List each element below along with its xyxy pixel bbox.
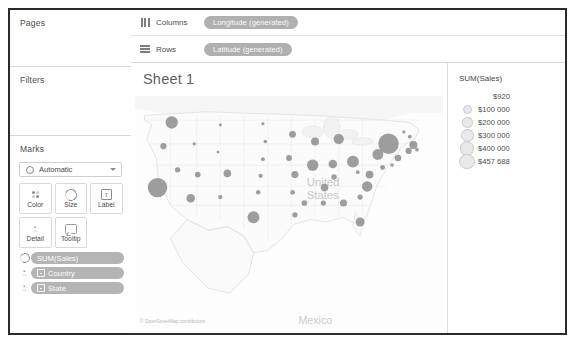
map-data-mark[interactable]	[289, 131, 296, 138]
marks-pill-list: SUM(Sales) ▪▫▫▫ Country	[18, 252, 124, 297]
map-data-mark[interactable]	[340, 199, 347, 206]
legend-title: SUM(Sales)	[459, 74, 502, 83]
marks-label-button[interactable]: T Label	[90, 183, 123, 214]
map-data-mark[interactable]	[261, 122, 264, 125]
map-data-mark[interactable]	[219, 123, 222, 126]
mark-type-dropdown[interactable]: Automatic	[19, 162, 122, 177]
map-data-mark[interactable]	[395, 155, 402, 162]
legend-entry[interactable]: $920	[456, 90, 559, 103]
svg-text:States: States	[307, 189, 339, 201]
map-data-mark[interactable]	[193, 142, 196, 145]
pill-body[interactable]: State	[31, 282, 124, 294]
map-label-mexico: Mexico	[298, 314, 332, 326]
legend-value: $300 000	[478, 131, 510, 140]
map-data-mark[interactable]	[334, 134, 344, 144]
legend-bubble-icon	[456, 129, 478, 142]
map-data-mark[interactable]	[290, 190, 295, 195]
map-data-mark[interactable]	[390, 163, 394, 167]
tableau-worksheet-screenshot: Pages Filters Marks Automatic	[0, 0, 577, 351]
filters-title: Filters	[10, 67, 131, 85]
map-data-mark[interactable]	[148, 178, 167, 197]
legend-entry[interactable]: $100 000	[456, 103, 559, 116]
filters-card[interactable]: Filters	[10, 67, 131, 136]
map-data-mark[interactable]	[256, 190, 261, 195]
map-data-mark[interactable]	[186, 194, 195, 203]
map-data-mark[interactable]	[311, 137, 319, 145]
page-title: Sheet 1	[143, 71, 194, 87]
map-data-mark[interactable]	[160, 143, 166, 149]
columns-pill-longitude[interactable]: Longitude (generated)	[204, 16, 298, 29]
size-legend-panel: SUM(Sales) $920$100 000$200 000$300 000$…	[447, 63, 565, 333]
map-data-mark[interactable]	[248, 211, 260, 223]
label-text-icon: T	[101, 188, 112, 201]
marks-pill-country[interactable]: ▪▫▫▫ Country	[18, 267, 124, 279]
map-data-mark[interactable]	[175, 167, 180, 172]
legend-entry[interactable]: $300 000	[456, 129, 559, 142]
map-visualization[interactable]: United States Mexico © OpenStreetMap con…	[135, 96, 443, 329]
rows-shelf-label: Rows	[156, 45, 204, 54]
map-data-mark[interactable]	[321, 184, 329, 192]
map-data-mark[interactable]	[408, 135, 412, 139]
map-data-mark[interactable]	[366, 171, 374, 179]
map-data-mark[interactable]	[406, 148, 412, 154]
left-sidebar: Pages Filters Marks Automatic	[10, 10, 131, 333]
map-attribution: © OpenStreetMap contributors	[140, 319, 205, 324]
marks-detail-button[interactable]: ▪▫▫▫ Detail	[19, 217, 52, 248]
marks-label-label: Label	[98, 202, 115, 209]
pages-card[interactable]: Pages	[10, 10, 131, 67]
rows-icon	[140, 45, 150, 53]
pill-body[interactable]: SUM(Sales)	[31, 252, 124, 264]
map-data-mark[interactable]	[321, 200, 326, 205]
marks-buttons-row-1: Color Size T Label	[19, 183, 123, 214]
map-data-mark[interactable]	[331, 174, 336, 179]
map-data-mark[interactable]	[292, 212, 297, 217]
map-data-mark[interactable]	[195, 172, 201, 178]
map-data-mark[interactable]	[302, 200, 308, 206]
legend-entry[interactable]: $457 688	[456, 155, 559, 168]
color-dots-icon	[32, 188, 40, 201]
marks-pill-sum-sales[interactable]: SUM(Sales)	[18, 252, 124, 264]
marks-buttons-row-2: ▪▫▫▫ Detail Tooltip	[19, 217, 123, 248]
mark-type-label: Automatic	[39, 165, 72, 174]
map-data-mark[interactable]	[402, 130, 405, 133]
map-data-mark[interactable]	[258, 174, 262, 178]
map-data-mark[interactable]	[218, 195, 222, 199]
legend-value: $200 000	[478, 118, 510, 127]
map-data-mark[interactable]	[224, 170, 232, 178]
map-data-mark[interactable]	[356, 217, 365, 226]
map-data-mark[interactable]	[415, 148, 419, 152]
legend-bubble-icon	[456, 117, 478, 128]
detail-icon: ▪▫▫▫	[18, 269, 31, 277]
marks-tooltip-button[interactable]: Tooltip	[55, 217, 88, 248]
map-data-mark[interactable]	[347, 156, 359, 168]
map-data-mark[interactable]	[357, 194, 362, 199]
detail-icon: ▪▫▫▫	[33, 222, 37, 235]
map-data-mark[interactable]	[380, 165, 385, 170]
map-data-mark[interactable]	[286, 155, 292, 161]
map-data-mark[interactable]	[409, 141, 417, 149]
rows-pill-latitude[interactable]: Latitude (generated)	[204, 43, 292, 56]
map-data-mark[interactable]	[261, 157, 265, 161]
map-data-mark[interactable]	[291, 171, 298, 178]
columns-shelf-label: Columns	[156, 18, 204, 27]
map-data-mark[interactable]	[362, 181, 372, 191]
marks-size-button[interactable]: Size	[55, 183, 88, 214]
map-data-mark[interactable]	[329, 160, 338, 169]
marks-color-button[interactable]: Color	[19, 183, 52, 214]
map-data-mark[interactable]	[307, 159, 318, 170]
map-data-mark[interactable]	[264, 140, 268, 144]
dimension-square-icon	[37, 284, 45, 292]
size-circle-icon	[65, 188, 77, 201]
rows-shelf[interactable]: Rows Latitude (generated)	[131, 36, 565, 62]
columns-shelf[interactable]: Columns Longitude (generated)	[131, 10, 565, 36]
legend-entry[interactable]: $200 000	[456, 116, 559, 129]
map-data-mark[interactable]	[166, 116, 178, 128]
marks-pill-label: Country	[48, 269, 75, 278]
pill-body[interactable]: Country	[31, 267, 124, 279]
legend-bubble-icon	[456, 154, 478, 170]
marks-pill-state[interactable]: ▪▫▫▫ State	[18, 282, 124, 294]
map-data-mark[interactable]	[356, 170, 360, 174]
map-data-mark[interactable]	[217, 151, 220, 154]
marks-size-label: Size	[64, 202, 77, 209]
map-data-mark[interactable]	[378, 134, 398, 154]
